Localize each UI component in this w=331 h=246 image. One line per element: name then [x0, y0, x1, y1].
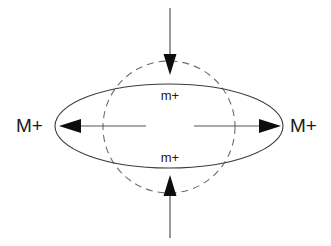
arrow-left-outward	[59, 119, 146, 133]
arrow-top-inward	[164, 8, 177, 75]
label-left-major: M+	[16, 115, 43, 136]
label-right-major: M+	[290, 115, 317, 136]
diagram-canvas: M+ M+ m+ m+	[0, 0, 331, 246]
arrow-left-head	[59, 119, 81, 133]
arrow-right-outward	[194, 119, 281, 133]
arrow-bottom-inward	[164, 175, 177, 238]
arrow-bottom-head	[164, 175, 177, 196]
label-top-minor: m+	[161, 88, 179, 103]
arrow-right-head	[259, 119, 281, 133]
arrow-top-head	[164, 54, 177, 75]
label-bottom-minor: m+	[161, 150, 179, 165]
dashed-circle	[103, 61, 235, 193]
tidal-deformation-diagram: M+ M+ m+ m+	[0, 0, 331, 246]
